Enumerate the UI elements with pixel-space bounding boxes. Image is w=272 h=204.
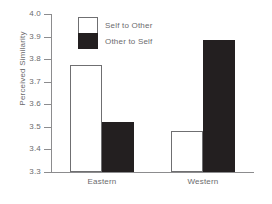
y-axis-tick-label: 3.8: [29, 54, 41, 63]
y-axis-line: [51, 14, 52, 173]
legend: Self to Other Other to Self: [78, 17, 153, 49]
y-axis-tick-label: 3.5: [29, 122, 41, 131]
legend-swatch-icon: [78, 33, 98, 49]
y-axis-tick-label: 3.4: [29, 144, 41, 153]
legend-label: Other to Self: [105, 37, 153, 46]
y-axis-tick-label: 3.3: [29, 167, 41, 176]
x-axis-category-label-western: Western: [171, 177, 235, 186]
y-axis-tick: 3.7: [44, 82, 51, 83]
legend-label: Self to Other: [105, 21, 153, 30]
y-axis-tick-label: 4.0: [29, 9, 41, 18]
bar-western-self-to-other: [171, 131, 203, 172]
y-axis-tick-label: 3.6: [29, 99, 41, 108]
legend-swatch-icon: [78, 17, 98, 33]
y-axis-tick-label: 3.7: [29, 77, 41, 86]
legend-item-other-to-self: Other to Self: [78, 33, 153, 49]
y-axis-tick: 3.6: [44, 104, 51, 105]
y-axis-tick: 4.0: [44, 14, 51, 15]
x-axis-category-label-eastern: Eastern: [70, 177, 134, 186]
bar-eastern-other-to-self: [102, 122, 134, 172]
y-axis-tick: 3.8: [44, 59, 51, 60]
y-axis-tick: 3.4: [44, 149, 51, 150]
y-axis-title: Perceived Similarity: [18, 5, 27, 133]
legend-item-self-to-other: Self to Other: [78, 17, 153, 33]
y-axis-tick: 3.3: [44, 172, 51, 173]
bar-eastern-self-to-other: [70, 65, 102, 172]
x-axis-line: [51, 172, 254, 173]
y-axis-tick: 3.5: [44, 127, 51, 128]
bar-western-other-to-self: [203, 40, 235, 172]
y-axis-tick: 3.9: [44, 37, 51, 38]
y-axis-tick-label: 3.9: [29, 32, 41, 41]
bar-chart-figure: Perceived Similarity 4.0 3.9 3.8 3.7 3.6…: [0, 0, 272, 204]
